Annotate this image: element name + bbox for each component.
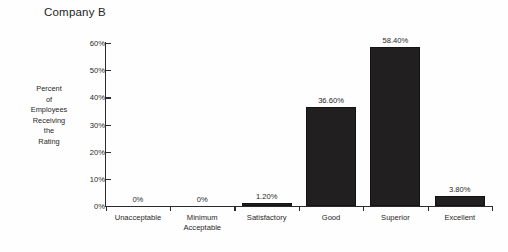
x-axis-category-label-line: Unacceptable — [115, 213, 161, 223]
y-axis-tick-label: 0% — [71, 202, 105, 211]
x-axis-category-label: Satisfactory — [247, 213, 287, 223]
x-axis-category-label: Unacceptable — [115, 213, 161, 223]
x-axis-category-label: Superior — [381, 213, 410, 223]
x-axis-category-label: Excellent — [444, 213, 475, 223]
y-axis-tick-label: 50% — [71, 66, 105, 75]
bar-chart-figure: Company B Percent of Employees Receiving… — [0, 0, 508, 252]
plot-area: 0%10%20%30%40%50%60% 0%0%1.20%36.60%58.4… — [0, 0, 508, 252]
x-axis-category-label-line: Minimum — [183, 213, 221, 223]
y-axis-tick-label: 40% — [71, 93, 105, 102]
bar[interactable] — [306, 107, 356, 206]
bar-value-label: 0% — [197, 195, 208, 204]
bar-value-label: 36.60% — [318, 96, 344, 105]
bar[interactable] — [370, 47, 420, 206]
x-axis-tick — [234, 206, 235, 211]
y-axis-tick — [105, 179, 111, 180]
y-axis-tick-label: 20% — [71, 148, 105, 157]
y-axis-tick — [105, 152, 111, 153]
y-axis-tick — [105, 125, 111, 126]
y-axis-tick-label: 30% — [71, 121, 105, 130]
x-axis-category-label-line: Acceptable — [183, 223, 221, 233]
x-axis-tick — [492, 206, 493, 211]
x-axis-category-label-line: Satisfactory — [247, 213, 287, 223]
x-axis-category-label-line: Excellent — [444, 213, 475, 223]
bar-value-label: 3.80% — [449, 185, 471, 194]
y-axis-tick — [105, 43, 111, 44]
x-axis-tick — [106, 206, 107, 211]
x-axis-tick — [170, 206, 171, 211]
x-axis-tick — [299, 206, 300, 211]
x-axis-category-label-line: Superior — [381, 213, 410, 223]
x-axis-tick — [363, 206, 364, 211]
y-axis-tick-label: 10% — [71, 175, 105, 184]
y-axis-tick — [105, 70, 111, 71]
y-axis-tick-label: 60% — [71, 39, 105, 48]
x-axis-tick — [428, 206, 429, 211]
bar-value-label: 1.20% — [256, 192, 278, 201]
bar-value-label: 58.40% — [383, 36, 409, 45]
bar[interactable] — [242, 203, 292, 206]
bar-value-label: 0% — [132, 195, 143, 204]
x-axis-category-label-line: Good — [322, 213, 341, 223]
bar[interactable] — [435, 196, 485, 206]
y-axis-tick — [105, 97, 111, 98]
x-axis-category-label: Good — [322, 213, 341, 223]
x-axis-category-label: MinimumAcceptable — [183, 213, 221, 234]
